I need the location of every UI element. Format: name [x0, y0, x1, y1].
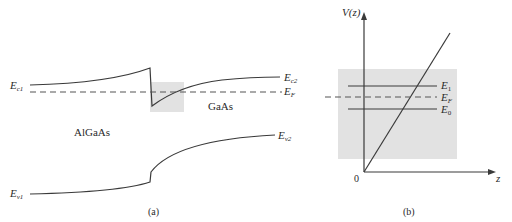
x-axis-label: z: [496, 173, 500, 184]
label-ec2: Ec2: [284, 72, 297, 85]
quantum-well-shaded-region: [338, 69, 457, 159]
label-e0: E0: [441, 104, 451, 117]
valence-band-curve: [30, 135, 275, 194]
y-axis-arrow-icon: [361, 12, 367, 20]
label-ev2: Ev2: [278, 130, 291, 143]
band-diagram-figure: [0, 0, 512, 222]
region-label-gaas: GaAs: [208, 101, 233, 112]
caption-a: (a): [148, 207, 159, 217]
label-ev1: Ev1: [10, 188, 23, 201]
label-ef-a: EF: [284, 86, 295, 99]
y-axis-label: V(z): [342, 7, 360, 18]
region-label-algaas: AlGaAs: [74, 127, 110, 138]
origin-label: 0: [354, 174, 359, 184]
caption-b: (b): [403, 207, 415, 217]
x-axis-arrow-icon: [488, 169, 496, 175]
label-ec1: Ec1: [10, 80, 23, 93]
